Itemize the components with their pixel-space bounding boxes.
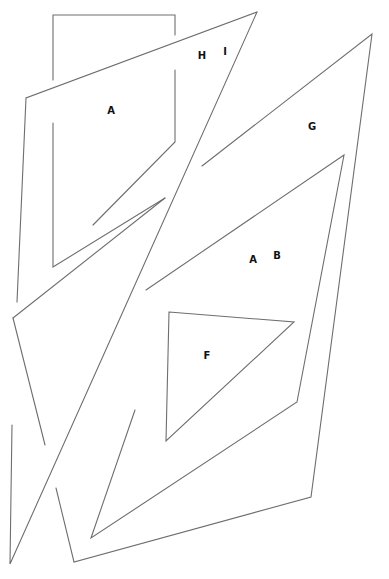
polygon-g	[56, 34, 372, 562]
label-f: F	[204, 351, 211, 361]
label-h: H	[198, 51, 206, 61]
tall-rectangle	[53, 15, 175, 267]
label-g: G	[308, 122, 316, 132]
polygon-ab	[91, 155, 344, 538]
label-a-mid: A	[249, 255, 257, 265]
triangle-f	[166, 312, 294, 441]
triangle-hi	[10, 12, 257, 564]
label-a-top: A	[107, 106, 115, 116]
geometry-diagram	[0, 0, 389, 579]
label-i: I	[223, 47, 227, 57]
label-b: B	[273, 251, 281, 261]
